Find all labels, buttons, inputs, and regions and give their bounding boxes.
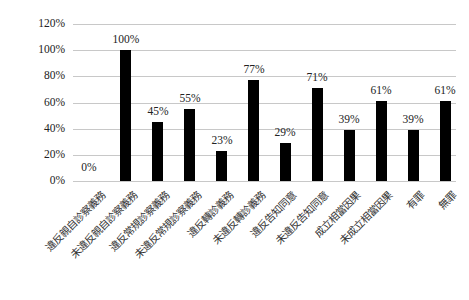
y-tick-label: 40% [5,122,65,134]
gridline [73,181,456,182]
y-tick-label: 0% [5,174,65,186]
bar [152,122,163,181]
bar [344,130,355,181]
bar [216,151,227,181]
bar [408,130,419,181]
data-label: 55% [170,92,210,104]
gridline [73,24,456,25]
data-label: 29% [265,126,305,138]
x-tick-label: 無罪 [435,187,460,212]
data-label: 0% [69,161,109,173]
y-tick-label: 120% [5,17,65,29]
y-tick-label: 80% [5,69,65,81]
bar [120,50,131,181]
data-label: 61% [361,84,401,96]
data-label: 100% [106,33,146,45]
y-tick-label: 60% [5,96,65,108]
bar [248,80,259,181]
bar [280,143,291,181]
bar [184,109,195,181]
data-label: 23% [202,134,242,146]
data-label: 61% [425,84,465,96]
y-tick-label: 100% [5,43,65,55]
data-label: 71% [297,71,337,83]
data-label: 39% [393,113,433,125]
bar [312,88,323,181]
data-label: 77% [234,63,274,75]
x-tick-label: 有罪 [403,187,428,212]
data-label: 45% [138,105,178,117]
y-tick-label: 20% [5,148,65,160]
bar [440,101,451,181]
data-label: 39% [329,113,369,125]
bar [376,101,387,181]
bar-chart: 0%20%40%60%80%100%120% 0%100%45%55%23%77… [0,0,469,300]
